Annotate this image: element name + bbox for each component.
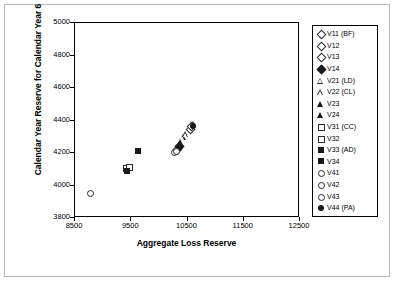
x-tick-label: 12500: [279, 221, 319, 230]
marker-tri-open-icon: [316, 76, 325, 85]
legend-item[interactable]: V34: [316, 156, 375, 168]
marker-diamond-open-icon: [316, 29, 325, 38]
marker-circle-filled-icon: [190, 123, 196, 129]
legend-item-label: V23: [327, 99, 339, 108]
y-tick-label: 4400: [40, 116, 70, 124]
legend-item[interactable]: V32: [316, 132, 375, 144]
legend-item-label: V14: [327, 64, 339, 73]
plot-area: [74, 22, 299, 217]
legend-item[interactable]: V22 (CL): [316, 86, 375, 98]
legend-item-label: V44 (PA): [327, 203, 355, 212]
marker-circle-open-icon: [316, 168, 325, 177]
data-point[interactable]: [85, 188, 94, 197]
legend-item-label: V31 (CC): [327, 122, 356, 131]
legend-item[interactable]: V11 (BF): [316, 28, 375, 40]
legend-item-label: V13: [327, 52, 339, 61]
marker-circle-open-icon: [173, 148, 180, 155]
legend-item[interactable]: V14: [316, 63, 375, 75]
marker-square-filled-icon: [124, 168, 130, 174]
marker-square-open-icon: [316, 134, 325, 143]
legend-item-label: V34: [327, 157, 339, 166]
legend-item-label: V24: [327, 110, 339, 119]
x-tick-label: 11500: [223, 221, 263, 230]
x-tick-mark: [130, 217, 131, 221]
legend-item-label: V22 (CL): [327, 87, 355, 96]
data-point[interactable]: [188, 122, 197, 131]
data-point[interactable]: [176, 137, 185, 146]
marker-circle-open-icon: [316, 180, 325, 189]
marker-square-open-icon: [316, 122, 325, 131]
y-tick-label: 4200: [40, 148, 70, 156]
x-tick-mark: [299, 217, 300, 221]
y-tick-mark: [70, 185, 74, 186]
y-tick-label: 5000: [40, 18, 70, 26]
y-axis-label-container: Calendar Year Reserve for Calendar Year …: [6, 22, 26, 217]
marker-diamond-filled-icon: [316, 64, 325, 73]
x-axis-label: Aggregate Loss Reserve: [74, 238, 299, 248]
marker-tri-filled-icon: [316, 110, 325, 119]
y-tick-mark: [70, 120, 74, 121]
legend-item[interactable]: V44 (PA): [316, 202, 375, 214]
x-tick-mark: [187, 217, 188, 221]
x-tick-mark: [243, 217, 244, 221]
legend-item[interactable]: V43: [316, 190, 375, 202]
legend-item-label: V11 (BF): [327, 29, 355, 38]
legend-item[interactable]: V23: [316, 98, 375, 110]
marker-square-filled-icon: [316, 157, 325, 166]
legend-item-label: V32: [327, 134, 339, 143]
marker-circle-open-icon: [316, 192, 325, 201]
y-tick-label: 4800: [40, 51, 70, 59]
legend-item[interactable]: V12: [316, 40, 375, 52]
marker-tri-filled-icon: [177, 139, 183, 145]
legend-item[interactable]: V33 (AD): [316, 144, 375, 156]
y-tick-label: 4000: [40, 181, 70, 189]
legend-item[interactable]: V13: [316, 51, 375, 63]
y-axis-ticks: 5000480046004400420040003800: [36, 22, 70, 217]
y-tick-mark: [70, 87, 74, 88]
y-tick-label: 4600: [40, 83, 70, 91]
y-tick-mark: [70, 55, 74, 56]
x-tick-mark: [74, 217, 75, 221]
x-tick-label: 10500: [167, 221, 207, 230]
y-tick-mark: [70, 22, 74, 23]
marker-tri-open-icon: [182, 131, 188, 137]
scatter-chart: Calendar Year Reserve for Calendar Year …: [0, 0, 395, 282]
legend-item[interactable]: V42: [316, 179, 375, 191]
legend-item-label: V43: [327, 192, 339, 201]
legend-item-label: V42: [327, 180, 339, 189]
data-point[interactable]: [134, 146, 143, 155]
marker-square-filled-icon: [135, 148, 141, 154]
marker-square-filled-icon: [316, 145, 325, 154]
marker-circle-open-icon: [87, 190, 94, 197]
legend-item-label: V12: [327, 41, 339, 50]
x-tick-label: 8500: [54, 221, 94, 230]
data-points-layer: [75, 23, 298, 216]
legend-item[interactable]: V21 (LD): [316, 74, 375, 86]
legend-item-label: V41: [327, 168, 339, 177]
legend: V11 (BF)V12V13V14V21 (LD)V22 (CL)V23V24V…: [312, 25, 378, 217]
marker-diamond-open-icon: [316, 41, 325, 50]
legend-item[interactable]: V41: [316, 167, 375, 179]
marker-circle-filled-icon: [316, 203, 325, 212]
y-tick-label: 3800: [40, 213, 70, 221]
legend-item[interactable]: V24: [316, 109, 375, 121]
legend-item-label: V21 (LD): [327, 76, 355, 85]
data-point[interactable]: [171, 146, 180, 155]
x-tick-label: 9500: [110, 221, 150, 230]
y-tick-mark: [70, 152, 74, 153]
legend-item-label: V33 (AD): [327, 145, 356, 154]
marker-tri-open-icon: [316, 87, 325, 96]
legend-item[interactable]: V31 (CC): [316, 121, 375, 133]
data-point[interactable]: [123, 166, 132, 175]
marker-tri-filled-icon: [316, 99, 325, 108]
x-axis-ticks: 85009500105001150012500: [74, 221, 299, 233]
marker-diamond-open-icon: [316, 52, 325, 61]
